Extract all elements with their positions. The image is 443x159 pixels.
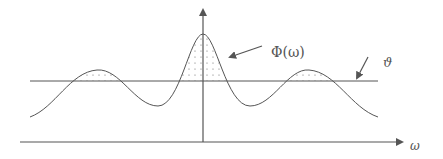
x-axis-label: ω (410, 139, 420, 153)
threshold-pointer-arrow (357, 57, 368, 78)
threshold-label: ϑ (383, 55, 392, 70)
diagram-canvas: Φ(ω) ϑ ω (0, 0, 443, 159)
phi-pointer-arrow (230, 46, 262, 57)
phi-label: Φ(ω) (271, 44, 305, 60)
